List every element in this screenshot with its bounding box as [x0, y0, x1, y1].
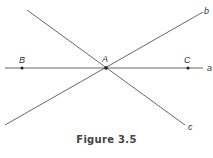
line-b	[5, 12, 203, 125]
figure-caption: Figure 3.5	[0, 134, 213, 145]
point-B	[21, 67, 24, 70]
point-A	[104, 66, 108, 70]
point-C	[187, 67, 190, 70]
point-label-C: C	[184, 55, 191, 65]
line-label-b: b	[204, 6, 209, 16]
point-label-A: A	[101, 54, 108, 64]
geometry-figure: abcBAC Figure 3.5	[0, 0, 213, 158]
point-label-B: B	[19, 55, 25, 65]
line-label-a: a	[207, 63, 212, 73]
line-label-c: c	[188, 122, 193, 132]
